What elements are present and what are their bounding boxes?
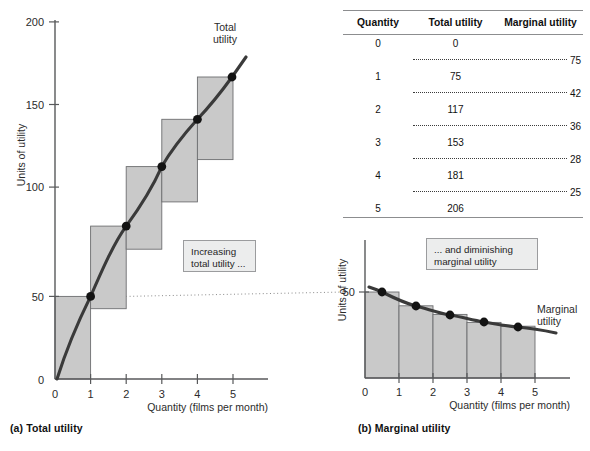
x-tick-label-1-b: 1 bbox=[396, 386, 402, 398]
mu-bar-q5 bbox=[501, 326, 535, 378]
marginal-utility-curve-label-line1: Marginal bbox=[537, 303, 577, 315]
panel-b-caption: (b) Marginal utility bbox=[358, 422, 450, 434]
mu-bar-q2 bbox=[399, 306, 433, 378]
x-axis-title-b: Quantity (films per month) bbox=[449, 399, 570, 411]
mu-bar-q1 bbox=[365, 292, 399, 378]
mu-point-q3 bbox=[446, 311, 455, 320]
marginal-utility-chart: 50 0 1 2 3 4 5 Units of utility Quantity… bbox=[0, 0, 590, 451]
utility-figure: 200 150 100 50 0 0 1 2 3 4 5 Units of ut… bbox=[0, 0, 590, 451]
mu-point-q4 bbox=[480, 318, 489, 327]
x-tick-label-5-b: 5 bbox=[532, 386, 538, 398]
marginal-utility-curve-label-line2: utility bbox=[537, 315, 562, 327]
mu-point-q2 bbox=[412, 302, 421, 311]
x-tick-label-4-b: 4 bbox=[498, 386, 504, 398]
callout-diminishing-marginal-utility: ... and diminishing marginal utility bbox=[426, 238, 538, 270]
mu-point-q5 bbox=[514, 323, 523, 332]
mu-point-q1 bbox=[378, 288, 387, 297]
marginal-utility-bars bbox=[365, 292, 535, 378]
callout-b-line1: ... and diminishing bbox=[434, 244, 530, 256]
mu-bar-q4 bbox=[467, 322, 501, 378]
callout-b-line2: marginal utility bbox=[434, 256, 530, 268]
mu-bar-q3 bbox=[433, 314, 467, 378]
x-tick-label-0-b: 0 bbox=[362, 386, 368, 398]
y-axis-title-b: Units of utility bbox=[336, 258, 348, 321]
x-tick-label-2-b: 2 bbox=[430, 386, 436, 398]
x-tick-label-3-b: 3 bbox=[464, 386, 470, 398]
